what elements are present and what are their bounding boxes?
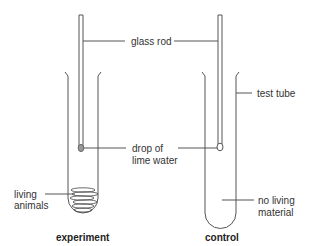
control-glass-rod [218, 15, 222, 144]
no-living-material-label-line2: material [258, 207, 294, 218]
no-living-material-label-line1: no living [258, 195, 295, 206]
control-lime-water-drop [217, 143, 223, 151]
control-caption: control [205, 232, 239, 243]
living-animals-label-line1: living [14, 189, 37, 200]
living-animals-label-line2: animals [14, 200, 48, 211]
experiment-glass-rod [79, 15, 83, 146]
drop-label-line1: drop of [132, 143, 163, 154]
experiment-caption: experiment [56, 232, 109, 243]
glass-rod-label: glass rod [131, 36, 172, 47]
drop-label-line2: lime water [132, 155, 178, 166]
leader-lines [45, 41, 254, 200]
experiment-lime-water-drop [78, 144, 84, 151]
test-tube-label: test tube [257, 88, 295, 99]
